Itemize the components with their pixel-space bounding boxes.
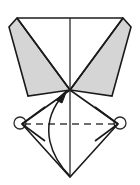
origami-diagram-canvas [0, 0, 140, 185]
origami-diagram-figure: origami-fold-step-diagram origami-instru… [0, 0, 140, 185]
